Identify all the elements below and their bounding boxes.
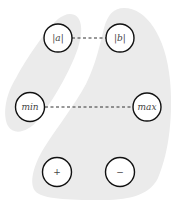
node-max: max [133,93,161,121]
node-label: + [53,167,61,177]
node-label: min [21,102,38,112]
node-label: |b| [114,33,126,44]
node-plus: + [43,158,72,187]
diagram-canvas: |a| |b| min max + − [0,0,177,208]
node-label: |a| [52,33,63,44]
node-abs-b: |b| [106,24,134,52]
node-label: − [116,167,124,177]
node-label: max [138,102,157,112]
diagram-svg: |a| |b| min max + − [0,0,177,208]
node-minus: − [106,158,135,187]
node-abs-a: |a| [44,24,72,52]
node-min: min [16,93,45,122]
